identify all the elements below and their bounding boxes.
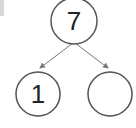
arrow-to-left	[40, 43, 73, 68]
arrow-to-right	[75, 43, 108, 68]
top-node: 7	[51, 0, 97, 44]
left-node: 1	[16, 72, 60, 116]
number-bond-diagram: 7 1	[0, 0, 136, 128]
left-node-value: 1	[31, 79, 45, 109]
top-node-value: 7	[67, 6, 81, 36]
right-node[interactable]	[88, 72, 132, 116]
